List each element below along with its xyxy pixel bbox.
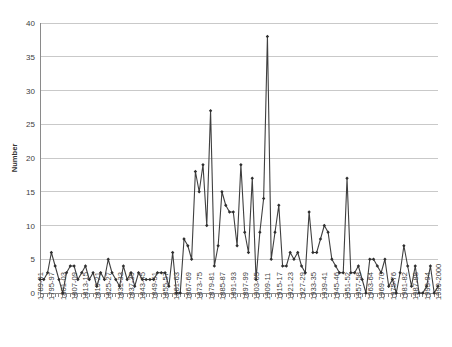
data-point: [402, 244, 405, 247]
data-point: [239, 163, 242, 166]
y-axis-tick-labels: 0510152025303540: [26, 19, 35, 298]
data-point: [243, 231, 246, 234]
x-tick-label: 1897-99: [241, 272, 250, 300]
x-tick-label: 1939-41: [320, 272, 329, 300]
data-point: [190, 258, 193, 261]
data-point: [258, 231, 261, 234]
x-tick-label: 1879-81: [207, 272, 216, 300]
data-point: [213, 264, 216, 267]
data-point: [53, 264, 56, 267]
data-point: [345, 177, 348, 180]
data-point: [414, 264, 417, 267]
x-tick-label: 1921-23: [286, 272, 295, 300]
x-tick-label: 1795-97: [47, 272, 56, 300]
x-tick-label: 1849-51: [150, 272, 159, 300]
data-point: [247, 251, 250, 254]
x-tick-label: 1873-75: [195, 272, 204, 300]
data-point: [311, 251, 314, 254]
data-point: [266, 35, 269, 38]
data-point: [315, 251, 318, 254]
y-axis-title-text: Number: [10, 144, 19, 173]
data-point: [50, 251, 53, 254]
data-point: [429, 264, 432, 267]
data-point: [368, 258, 371, 261]
data-point: [383, 258, 386, 261]
data-point: [232, 210, 235, 213]
data-point: [216, 244, 219, 247]
x-tick-label: 1861-63: [172, 272, 181, 300]
data-point: [319, 237, 322, 240]
chart-canvas: 0510152025303540 1789-911795-971801-0318…: [0, 0, 452, 347]
x-tick-label: 1807-09: [70, 272, 79, 300]
y-tick-label: 20: [26, 154, 35, 163]
x-tick-label: 1933-35: [309, 272, 318, 300]
y-tick-label: 35: [26, 53, 35, 62]
y-tick-label: 40: [26, 19, 35, 28]
data-point: [194, 170, 197, 173]
gridlines: [40, 23, 438, 293]
data-point: [277, 204, 280, 207]
x-tick-label: 1915-17: [275, 272, 284, 300]
y-tick-label: 10: [26, 222, 35, 231]
x-tick-label: 1957-58: [354, 272, 363, 300]
data-point: [262, 197, 265, 200]
data-point: [205, 224, 208, 227]
x-tick-label: 1891-93: [229, 272, 238, 300]
data-point: [251, 177, 254, 180]
x-tick-label: 1813-15: [81, 272, 90, 300]
data-point: [220, 190, 223, 193]
x-tick-label: 1951-52: [343, 272, 352, 300]
data-point: [235, 244, 238, 247]
y-tick-label: 30: [26, 87, 35, 96]
data-point: [270, 258, 273, 261]
data-point: [209, 109, 212, 112]
x-tick-label: 1981-82: [400, 272, 409, 300]
data-point: [171, 251, 174, 254]
data-point: [273, 231, 276, 234]
x-tick-label: 1969-70: [377, 272, 386, 300]
y-tick-label: 15: [26, 188, 35, 197]
y-tick-label: 5: [31, 255, 36, 264]
x-tick-label: 1843-45: [138, 272, 147, 300]
x-tick-label: 1885-87: [218, 272, 227, 300]
y-axis-title: Number: [10, 144, 19, 173]
x-tick-label: 1945-46: [332, 272, 341, 300]
x-tick-label: 1927-29: [298, 272, 307, 300]
data-series: [38, 35, 439, 295]
data-point: [201, 163, 204, 166]
data-point: [122, 264, 125, 267]
data-point: [72, 264, 75, 267]
x-tick-label: 1909-11: [263, 273, 272, 300]
data-point: [406, 264, 409, 267]
data-point: [198, 190, 201, 193]
y-tick-label: 25: [26, 120, 35, 129]
series-line: [40, 37, 438, 294]
y-tick-label: 0: [31, 289, 36, 298]
data-point: [107, 258, 110, 261]
data-point: [307, 210, 310, 213]
x-tick-label: 1999-2000: [434, 264, 443, 300]
data-point: [281, 264, 284, 267]
data-point: [285, 264, 288, 267]
x-tick-label: 1789-91: [36, 272, 45, 300]
x-tick-label: 1867-69: [184, 272, 193, 300]
line-chart: 0510152025303540 1789-911795-971801-0318…: [0, 0, 452, 347]
